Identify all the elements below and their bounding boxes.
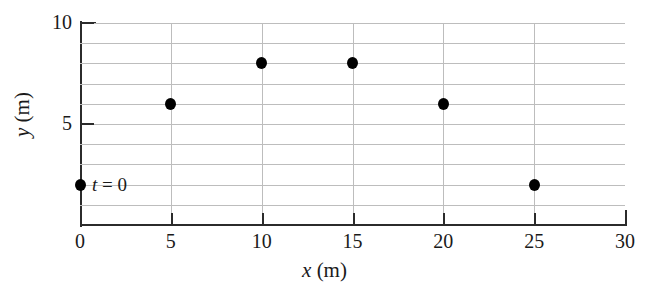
data-point bbox=[347, 57, 358, 69]
x-axis-label-unit: (m) bbox=[317, 258, 347, 282]
y-axis-label-unit: (m) bbox=[10, 92, 34, 122]
x-axis-tick-label: 30 bbox=[605, 231, 645, 251]
gridline-vertical bbox=[443, 23, 444, 225]
annotation-t-equals-zero: t = 0 bbox=[92, 175, 127, 194]
x-axis-tick-label: 15 bbox=[333, 231, 373, 251]
x-axis-tick-label: 10 bbox=[242, 231, 282, 251]
y-axis-label-symbol: y bbox=[10, 128, 34, 137]
annotation-rest: = 0 bbox=[97, 174, 127, 195]
data-point bbox=[75, 179, 86, 191]
gridline-vertical bbox=[353, 23, 354, 225]
y-axis-label: y (m) bbox=[12, 65, 33, 165]
x-axis-tick bbox=[262, 213, 264, 226]
x-axis-tick-label: 0 bbox=[60, 231, 100, 251]
data-point bbox=[438, 98, 449, 110]
y-axis-tick bbox=[80, 123, 94, 125]
gridline-vertical bbox=[171, 23, 172, 225]
gridline-vertical bbox=[262, 23, 263, 225]
x-axis-label-symbol: x bbox=[302, 258, 311, 282]
data-point bbox=[529, 179, 540, 191]
y-axis-tick-label: 10 bbox=[32, 12, 72, 32]
x-axis-tick-label: 20 bbox=[423, 231, 463, 251]
x-axis-tick bbox=[353, 213, 355, 226]
x-axis-tick bbox=[534, 213, 536, 226]
x-axis-tick-label: 25 bbox=[514, 231, 554, 251]
plot-area bbox=[80, 23, 625, 225]
x-axis-tick-label: 5 bbox=[151, 231, 191, 251]
x-axis-tick bbox=[443, 213, 445, 226]
x-axis-label: x (m) bbox=[0, 260, 649, 281]
data-point bbox=[165, 98, 176, 110]
y-axis-tick-label: 5 bbox=[32, 113, 72, 133]
x-axis-tick bbox=[171, 213, 173, 226]
y-axis-tick bbox=[80, 22, 94, 24]
data-point bbox=[256, 57, 267, 69]
gridline-vertical bbox=[534, 23, 535, 225]
scatter-plot-figure: 510 051015202530 t = 0 x (m) y (m) bbox=[0, 0, 649, 292]
x-axis-right-cap bbox=[625, 210, 627, 226]
